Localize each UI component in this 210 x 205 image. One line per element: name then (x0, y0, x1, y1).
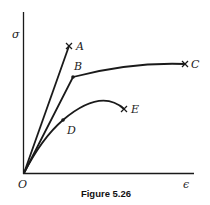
label-c: C (191, 58, 200, 71)
x-axis-label: ϵ (183, 178, 189, 191)
origin-label: O (18, 178, 27, 191)
label-a: A (75, 40, 84, 53)
curve-c (24, 64, 185, 173)
point-d-dot (61, 118, 65, 122)
stress-strain-diagram: σ ϵ O A B C D E Figure 5.26 (0, 0, 210, 205)
curve-a (24, 46, 69, 173)
y-axis-label: σ (12, 28, 20, 41)
label-b: B (73, 60, 82, 73)
figure-caption: Figure 5.26 (81, 188, 131, 199)
label-e: E (130, 103, 139, 116)
fracture-marker-e (121, 106, 127, 112)
label-d: D (66, 124, 76, 137)
point-b-dot (71, 75, 75, 79)
